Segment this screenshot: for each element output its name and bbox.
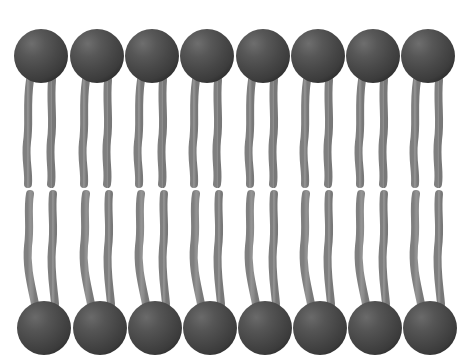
lipid-head [236,29,290,83]
lipid-head [293,301,347,355]
lipid-tail [217,194,221,304]
lipid-tail [382,194,386,304]
lipid-tail [303,80,307,184]
lipid-tail [162,194,166,304]
lipid-head [401,29,455,83]
lipid-tail [327,194,331,304]
lipid-tail [358,80,362,184]
lipid-head [348,301,402,355]
lipid-head [346,29,400,83]
lipid-tail [82,80,86,184]
lipid-tail [107,194,111,304]
lipid-head [125,29,179,83]
lipid-head [70,29,124,83]
lipid-tail [26,80,30,184]
lipid-head [291,29,345,83]
lipid-tail [192,80,196,184]
lipid-bilayer-figure [0,0,475,363]
lipid-tail [413,80,417,184]
lipid-head [180,29,234,83]
lipid-head [17,301,71,355]
lipid-tail [137,80,141,184]
lipid-tail [272,194,276,304]
lipid-head [14,29,68,83]
lipid-tail [272,80,274,184]
lipid-head [128,301,182,355]
lipid-head [183,301,237,355]
lipid-head [238,301,292,355]
lipid-tail [437,194,441,304]
lipid-tail [248,80,252,184]
lipid-tail [216,80,218,184]
lipid-head [403,301,457,355]
lipid-tail [106,80,108,184]
lipid-tail [50,80,52,184]
lipid-tail [437,80,439,184]
lipid-tail [51,194,55,304]
lipid-tail [382,80,384,184]
bilayer-canvas [0,0,475,363]
lipid-tail [327,80,329,184]
lipid-tail [161,80,163,184]
lipid-head [73,301,127,355]
